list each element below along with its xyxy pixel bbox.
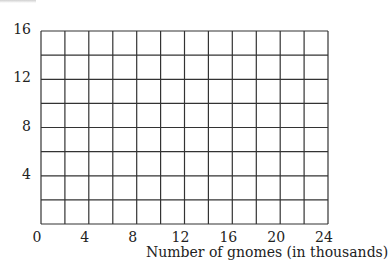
x-tick-label: 4 — [70, 230, 100, 244]
plot-area — [41, 31, 328, 224]
cutoff-ylabel-fragment — [0, 0, 36, 3]
y-tick-label: 8 — [1, 119, 31, 133]
x-axis-label: Number of gnomes (in thousands) — [146, 244, 388, 260]
y-tick-label: 4 — [1, 167, 31, 181]
x-tick-label: 20 — [261, 230, 291, 244]
x-tick-label: 8 — [118, 230, 148, 244]
x-tick-label: 12 — [166, 230, 196, 244]
grid — [41, 31, 328, 224]
y-tick-label: 16 — [1, 22, 31, 36]
y-tick-label: 12 — [1, 70, 31, 84]
x-tick-label: 0 — [22, 230, 52, 244]
x-tick-label: 16 — [213, 230, 243, 244]
x-tick-label: 24 — [309, 230, 339, 244]
